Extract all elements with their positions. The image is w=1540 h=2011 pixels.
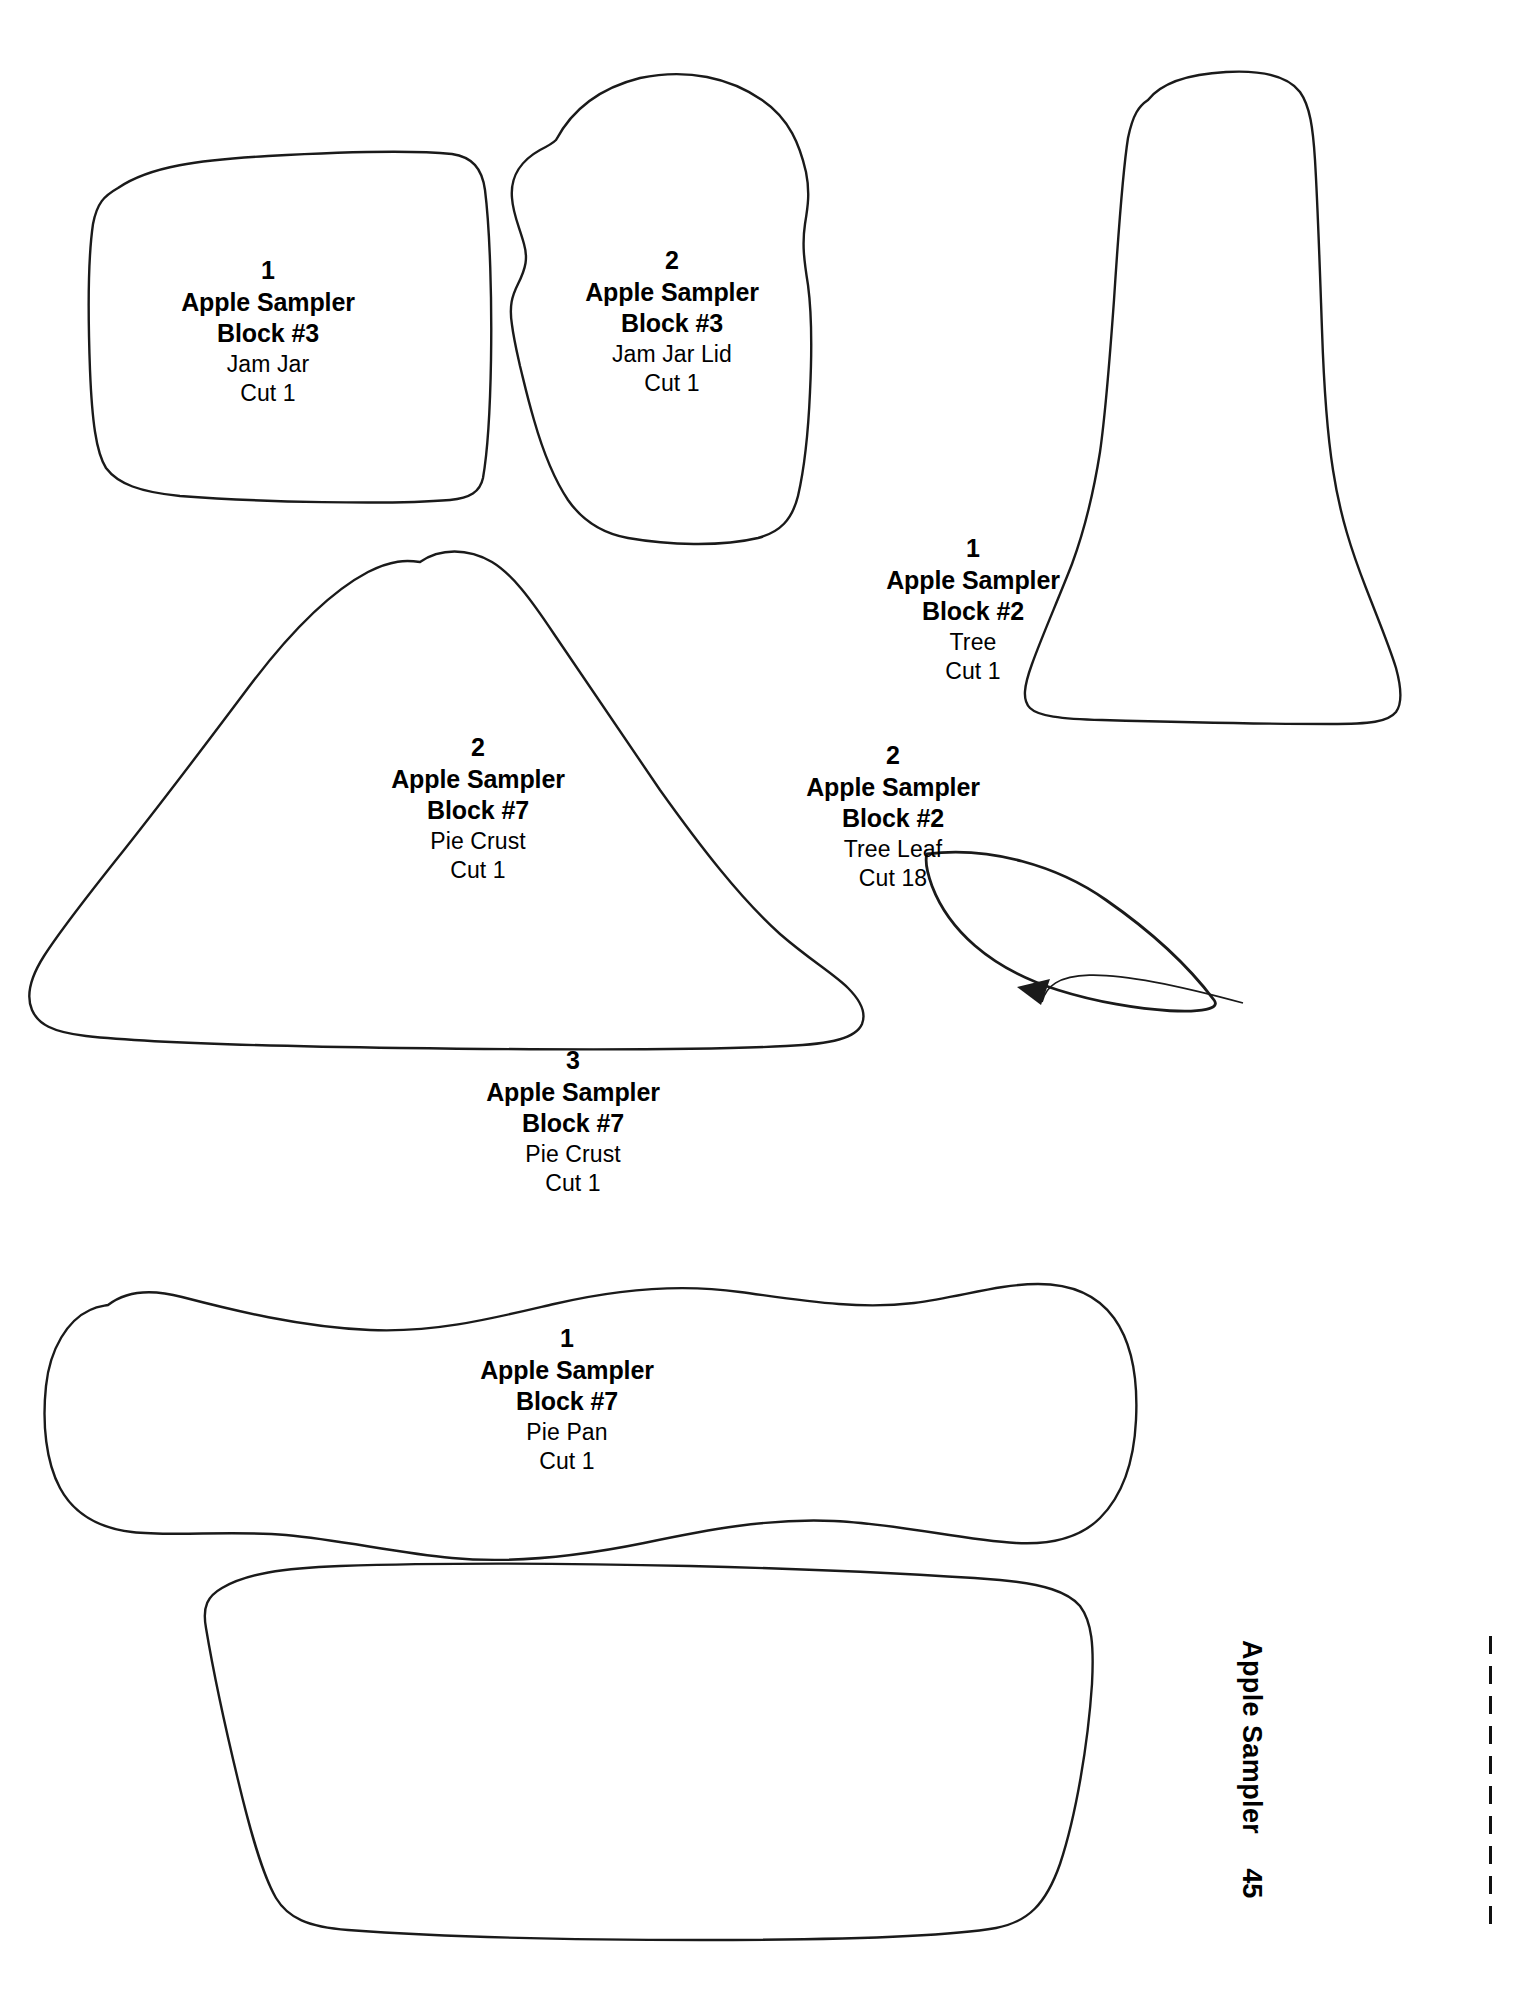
shape-pie-pan — [205, 1564, 1093, 1940]
label-cut: Cut 1 — [181, 382, 355, 405]
label-pie-crust-3: 3 Apple Sampler Block #7 Pie Crust Cut 1 — [486, 1048, 660, 1195]
label-title: Apple Sampler — [806, 775, 980, 800]
label-part: Jam Jar — [181, 353, 355, 376]
label-cut: Cut 1 — [391, 859, 565, 882]
label-number: 2 — [585, 248, 759, 273]
label-block: Block #2 — [806, 806, 980, 831]
label-cut: Cut 1 — [486, 1172, 660, 1195]
side-footer: Apple Sampler 45 — [1232, 1640, 1272, 1940]
page-number: 45 — [1237, 1868, 1268, 1898]
label-number: 2 — [391, 735, 565, 760]
label-number: 1 — [181, 258, 355, 283]
shape-tree — [1025, 72, 1401, 724]
leaf-pointer-arrowhead — [1017, 979, 1050, 1005]
label-number: 1 — [480, 1326, 654, 1351]
label-block: Block #7 — [391, 798, 565, 823]
label-title: Apple Sampler — [181, 290, 355, 315]
label-tree-leaf: 2 Apple Sampler Block #2 Tree Leaf Cut 1… — [806, 743, 980, 890]
label-title: Apple Sampler — [585, 280, 759, 305]
label-tree: 1 Apple Sampler Block #2 Tree Cut 1 — [886, 536, 1060, 683]
label-part: Pie Crust — [391, 830, 565, 853]
label-number: 1 — [886, 536, 1060, 561]
label-cut: Cut 1 — [886, 660, 1060, 683]
label-block: Block #3 — [181, 321, 355, 346]
label-number: 3 — [486, 1048, 660, 1073]
label-cut: Cut 1 — [480, 1450, 654, 1473]
label-part: Jam Jar Lid — [585, 343, 759, 366]
label-cut: Cut 1 — [585, 372, 759, 395]
label-part: Pie Pan — [480, 1421, 654, 1444]
label-title: Apple Sampler — [480, 1358, 654, 1383]
label-title: Apple Sampler — [886, 568, 1060, 593]
label-block: Block #2 — [886, 599, 1060, 624]
label-pie-pan: 1 Apple Sampler Block #7 Pie Pan Cut 1 — [480, 1326, 654, 1473]
label-number: 2 — [806, 743, 980, 768]
side-footer-dashed-rule — [1489, 1636, 1492, 1936]
label-pie-crust-2: 2 Apple Sampler Block #7 Pie Crust Cut 1 — [391, 735, 565, 882]
label-jam-jar: 1 Apple Sampler Block #3 Jam Jar Cut 1 — [181, 258, 355, 405]
label-block: Block #3 — [585, 311, 759, 336]
pattern-page: 1 Apple Sampler Block #3 Jam Jar Cut 1 2… — [0, 0, 1540, 2011]
label-block: Block #7 — [486, 1111, 660, 1136]
label-title: Apple Sampler — [486, 1080, 660, 1105]
label-part: Tree Leaf — [806, 838, 980, 861]
label-part: Tree — [886, 631, 1060, 654]
label-jam-jar-lid: 2 Apple Sampler Block #3 Jam Jar Lid Cut… — [585, 248, 759, 395]
label-block: Block #7 — [480, 1389, 654, 1414]
label-title: Apple Sampler — [391, 767, 565, 792]
side-footer-title: Apple Sampler — [1237, 1640, 1268, 1834]
label-cut: Cut 18 — [806, 867, 980, 890]
label-part: Pie Crust — [486, 1143, 660, 1166]
